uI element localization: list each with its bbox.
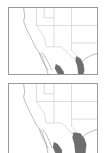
- gulf-coast: [81, 54, 97, 63]
- range-map-top: [8, 7, 98, 75]
- map-svg-top: [9, 8, 97, 74]
- gulf-coast: [81, 130, 97, 139]
- state-borders: [36, 84, 97, 138]
- range-area-west: [53, 142, 62, 153]
- range-map-bottom: [8, 83, 98, 153]
- map-svg-bottom: [9, 84, 97, 153]
- state-borders: [36, 8, 97, 62]
- range-area-west: [55, 64, 64, 74]
- range-area-east: [75, 57, 84, 74]
- coastline: [24, 84, 48, 153]
